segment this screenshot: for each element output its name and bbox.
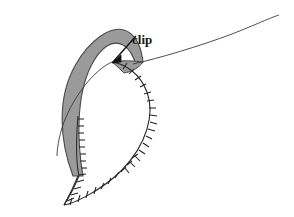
clip-label: clip: [132, 32, 152, 47]
illustration-canvas: clip: [0, 0, 294, 217]
sewing-diagram: clip: [0, 0, 294, 217]
